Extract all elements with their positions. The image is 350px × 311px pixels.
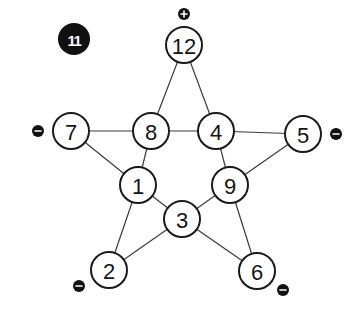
node-value: 2 bbox=[103, 259, 115, 284]
minus-icon bbox=[32, 125, 44, 137]
node-5: 5 bbox=[285, 116, 321, 152]
node-12: 12 bbox=[166, 27, 202, 63]
puzzle-number-text: 11 bbox=[68, 32, 82, 49]
minus-icon bbox=[277, 284, 289, 296]
node-value: 9 bbox=[224, 174, 236, 199]
node-value: 4 bbox=[210, 120, 222, 145]
node-value: 8 bbox=[145, 120, 157, 145]
puzzle-number-label: 11 bbox=[58, 23, 90, 55]
node-value: 5 bbox=[297, 123, 309, 148]
node-8: 8 bbox=[133, 113, 169, 149]
node-3: 3 bbox=[164, 201, 200, 237]
node-9: 9 bbox=[212, 167, 248, 203]
nodes: 12784519326 bbox=[53, 27, 321, 289]
node-7: 7 bbox=[53, 113, 89, 149]
node-6: 6 bbox=[239, 253, 275, 289]
node-value: 12 bbox=[172, 34, 196, 59]
node-4: 4 bbox=[198, 113, 234, 149]
node-2: 2 bbox=[91, 252, 127, 288]
node-value: 3 bbox=[176, 208, 188, 233]
star-number-diagram: 12784519326 11 bbox=[0, 0, 350, 311]
node-value: 6 bbox=[251, 260, 263, 285]
node-1: 1 bbox=[120, 167, 156, 203]
node-value: 7 bbox=[65, 120, 77, 145]
minus-icon bbox=[330, 128, 342, 140]
node-value: 1 bbox=[132, 174, 144, 199]
plus-icon bbox=[178, 8, 190, 20]
minus-icon bbox=[73, 280, 85, 292]
